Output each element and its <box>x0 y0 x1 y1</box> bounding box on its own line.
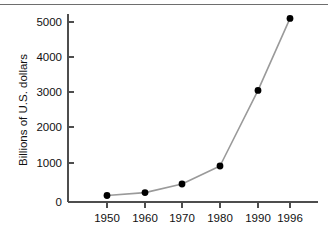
data-point-1950 <box>104 192 111 199</box>
x-tick-label-1980: 1980 <box>207 212 233 224</box>
data-point-1980 <box>217 163 224 170</box>
y-tick-label-3000: 3000 <box>36 86 62 98</box>
x-tick-label-1970: 1970 <box>169 212 195 224</box>
data-point-1960 <box>142 189 149 196</box>
y-tick-label-2000: 2000 <box>36 121 62 133</box>
data-point-1970 <box>179 181 186 188</box>
data-point-1990 <box>255 87 262 94</box>
y-tick-label-0: 0 <box>56 196 62 208</box>
x-tick-label-1950: 1950 <box>94 212 120 224</box>
data-series-markers <box>104 15 294 199</box>
y-tick-label-4000: 4000 <box>36 51 62 63</box>
figure-container: Billions of U.S. dollars 5000 4000 3000 … <box>0 0 328 230</box>
data-point-1996 <box>287 15 294 22</box>
y-tick-label-1000: 1000 <box>36 157 62 169</box>
data-series-line <box>107 18 290 195</box>
line-chart: Billions of U.S. dollars 5000 4000 3000 … <box>0 0 328 230</box>
y-axis-label: Billions of U.S. dollars <box>17 54 29 166</box>
x-tick-label-1960: 1960 <box>132 212 158 224</box>
x-tick-label-1996: 1996 <box>277 212 303 224</box>
x-tick-label-1990: 1990 <box>245 212 271 224</box>
y-tick-label-5000: 5000 <box>36 16 62 28</box>
